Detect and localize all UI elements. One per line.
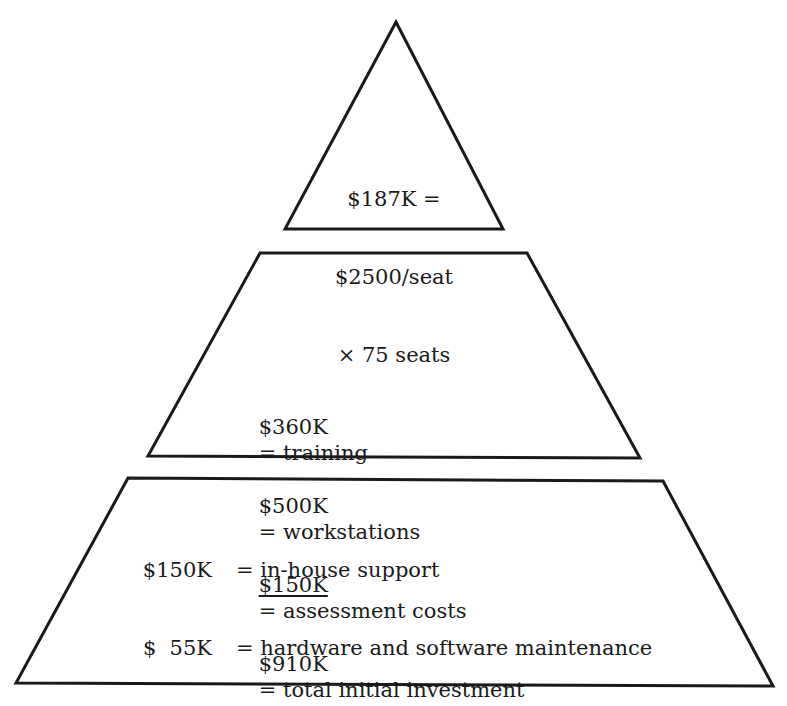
cost-amount: $150K [120, 557, 212, 583]
bottom-tier-row: $ 55K = hardware and software maintenanc… [120, 635, 652, 661]
cost-description: = hardware and software maintenance [236, 635, 652, 661]
cost-amount: $ 55K [120, 635, 212, 661]
middle-tier-row: $360K = training [232, 388, 524, 415]
top-tier-line: $2500/seat [285, 264, 503, 290]
bottom-tier-row: $150K = in-house support [120, 557, 652, 583]
cost-description: = in-house support [236, 557, 440, 583]
cost-amount: $360K [259, 415, 328, 439]
bottom-tier-text: $150K = in-house support $ 55K = hardwar… [120, 505, 652, 706]
top-tier-line: $187K = [285, 186, 503, 212]
middle-tier-row: $500K = workstations [232, 467, 524, 494]
cost-description: = training [259, 441, 368, 465]
